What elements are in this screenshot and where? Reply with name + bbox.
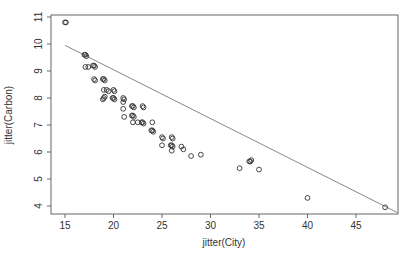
x-axis: 15202530354045 [59,214,362,231]
y-axis: 4567891011 [33,11,51,208]
data-point [150,120,155,125]
y-axis-title: jitter(Carbon) [3,86,14,145]
scatter-plot: 15202530354045 4567891011 jitter(City) j… [0,0,415,258]
y-tick-label: 4 [33,203,44,209]
data-point [131,120,136,125]
data-point [141,105,146,110]
regression-line [65,45,398,212]
x-axis-title: jitter(City) [202,237,246,248]
x-tick-label: 15 [59,220,71,231]
x-tick-label: 45 [350,220,362,231]
x-tick-label: 20 [108,220,120,231]
data-point [121,106,126,111]
data-point [112,89,117,94]
y-tick-label: 6 [33,149,44,155]
y-tick-label: 8 [33,95,44,101]
data-point [122,115,127,120]
x-tick-label: 40 [302,220,314,231]
data-point [305,196,310,201]
data-point [93,78,98,83]
y-tick-label: 10 [33,38,44,50]
x-tick-label: 30 [205,220,217,231]
data-point [170,136,175,141]
data-point [161,136,166,141]
x-tick-label: 25 [156,220,168,231]
data-points [63,20,388,210]
plot-frame [51,15,398,214]
x-tick-label: 35 [253,220,265,231]
data-point [86,65,91,70]
y-tick-label: 9 [33,68,44,74]
y-tick-label: 7 [33,122,44,128]
data-point [257,167,262,172]
data-point [237,166,242,171]
data-point [160,143,165,148]
y-tick-label: 5 [33,176,44,182]
data-point [198,152,203,157]
y-tick-label: 11 [33,11,44,22]
data-point [189,154,194,159]
